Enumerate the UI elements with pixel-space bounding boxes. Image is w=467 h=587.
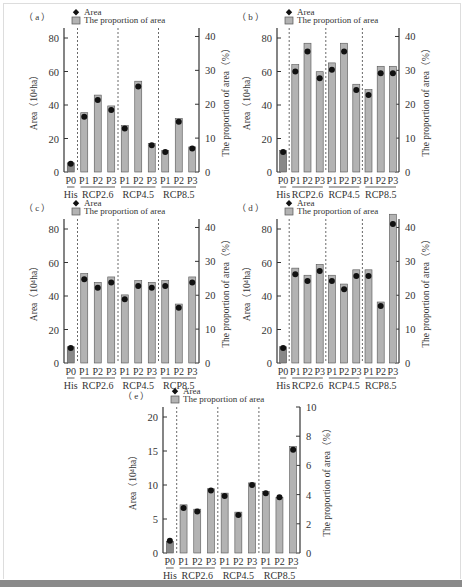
- proportion-bar: [249, 483, 256, 553]
- legend-bar-icon: [72, 208, 80, 215]
- x-tick-label: P1: [219, 556, 230, 567]
- area-marker-icon: [390, 70, 396, 76]
- area-marker-icon: [249, 482, 255, 488]
- x-tick-label: P2: [375, 366, 386, 377]
- y2-tick-label: 40: [405, 31, 416, 42]
- area-marker-icon: [181, 505, 187, 511]
- proportion-bar: [207, 489, 214, 553]
- y-tick-label: 40: [49, 291, 60, 302]
- left-axis-title: Area（10⁴ha）: [127, 450, 138, 510]
- x-tick-label: P0: [65, 175, 76, 186]
- area-marker-icon: [194, 509, 200, 515]
- y2-tick-label: 0: [306, 548, 311, 559]
- y-tick-label: 80: [49, 33, 60, 44]
- x-tick-label: P1: [327, 175, 338, 186]
- proportion-bar: [108, 277, 115, 363]
- x-tick-label: P1: [327, 366, 338, 377]
- y2-tick-label: 30: [405, 256, 416, 267]
- x-tick-label: P1: [79, 366, 90, 377]
- group-label: His: [64, 380, 78, 391]
- proportion-bar: [365, 270, 372, 363]
- y2-tick-label: 6: [306, 460, 311, 471]
- left-axis-title: Area（10⁴ha）: [28, 261, 39, 321]
- proportion-bar: [353, 270, 360, 363]
- legend-diamond-icon: [286, 200, 292, 206]
- x-tick-label: P3: [206, 556, 217, 567]
- y-tick-label: 60: [49, 258, 60, 269]
- y-tick-label: 40: [49, 100, 60, 111]
- left-axis-title: Area（10⁴ha）: [241, 261, 252, 321]
- x-tick-label: P2: [375, 175, 386, 186]
- area-marker-icon: [390, 221, 396, 227]
- x-tick-label: P2: [133, 366, 144, 377]
- area-marker-icon: [329, 278, 335, 284]
- x-tick-label: P2: [302, 366, 313, 377]
- area-marker-icon: [135, 283, 141, 289]
- panel-label: （ a ）: [24, 12, 51, 22]
- x-tick-label: P2: [302, 175, 313, 186]
- y2-tick-label: 30: [205, 65, 216, 76]
- y2-tick-label: 40: [205, 222, 216, 233]
- x-tick-label: P1: [160, 175, 171, 186]
- proportion-bar: [148, 282, 155, 363]
- area-marker-icon: [222, 493, 228, 499]
- proportion-bar: [175, 304, 182, 363]
- x-tick-label: P3: [146, 366, 157, 377]
- proportion-bar: [262, 492, 269, 553]
- y-tick-label: 60: [262, 67, 273, 78]
- legend-bar-icon: [285, 208, 293, 215]
- chart-panel-a: AreaThe proportion of area（ a ）020406080…: [0, 0, 234, 200]
- area-marker-icon: [280, 149, 286, 155]
- proportion-bar: [341, 43, 348, 172]
- left-axis-title: Area（10⁴ha）: [28, 70, 39, 130]
- y2-tick-label: 20: [405, 290, 416, 301]
- x-tick-label: P3: [146, 175, 157, 186]
- y2-tick-label: 10: [205, 133, 216, 144]
- x-tick-label: P1: [119, 366, 130, 377]
- x-tick-label: P0: [278, 366, 289, 377]
- area-marker-icon: [149, 142, 155, 148]
- y2-tick-label: 2: [306, 519, 311, 530]
- proportion-bar: [121, 295, 128, 363]
- y-tick-label: 60: [49, 67, 60, 78]
- y-tick-label: 20: [148, 412, 159, 423]
- proportion-bar: [389, 214, 396, 363]
- proportion-bar: [276, 498, 283, 553]
- y-tick-label: 60: [262, 258, 273, 269]
- legend-bar-icon: [171, 396, 179, 403]
- y2-tick-label: 20: [405, 99, 416, 110]
- panel-label: （ c ）: [24, 203, 51, 213]
- y-tick-label: 40: [262, 291, 273, 302]
- chart-panel-d: AreaThe proportion of area（ d ）020406080…: [234, 195, 467, 395]
- proportion-bar: [135, 281, 142, 363]
- y2-tick-label: 40: [205, 31, 216, 42]
- proportion-bar: [292, 65, 299, 172]
- area-marker-icon: [95, 97, 101, 103]
- area-marker-icon: [162, 283, 168, 289]
- proportion-bar: [316, 72, 323, 172]
- x-tick-label: P3: [247, 556, 258, 567]
- proportion-bar: [175, 118, 182, 172]
- x-tick-label: P3: [388, 366, 399, 377]
- x-tick-label: P0: [165, 556, 176, 567]
- proportion-bar: [290, 446, 297, 553]
- chart-panel-e: AreaThe proportion of area（ e ）051015200…: [110, 385, 360, 587]
- y2-tick-label: 4: [306, 490, 312, 501]
- y-tick-label: 80: [262, 224, 273, 235]
- proportion-bar: [194, 509, 201, 553]
- proportion-bar: [180, 505, 187, 553]
- proportion-bar: [94, 282, 101, 363]
- legend-diamond-icon: [73, 200, 79, 206]
- legend-diamond-icon: [73, 9, 79, 15]
- area-marker-icon: [317, 75, 323, 81]
- x-tick-label: P3: [288, 556, 299, 567]
- legend-proportion-label: The proportion of area: [84, 15, 165, 25]
- y-tick-label: 0: [54, 167, 59, 178]
- x-tick-label: P3: [187, 175, 198, 186]
- area-marker-icon: [167, 538, 173, 544]
- group-label: RCP2.6: [82, 380, 113, 391]
- y-tick-label: 80: [262, 33, 273, 44]
- area-marker-icon: [176, 305, 182, 311]
- y-tick-label: 5: [153, 514, 158, 525]
- panel-label: （ e ）: [123, 391, 150, 401]
